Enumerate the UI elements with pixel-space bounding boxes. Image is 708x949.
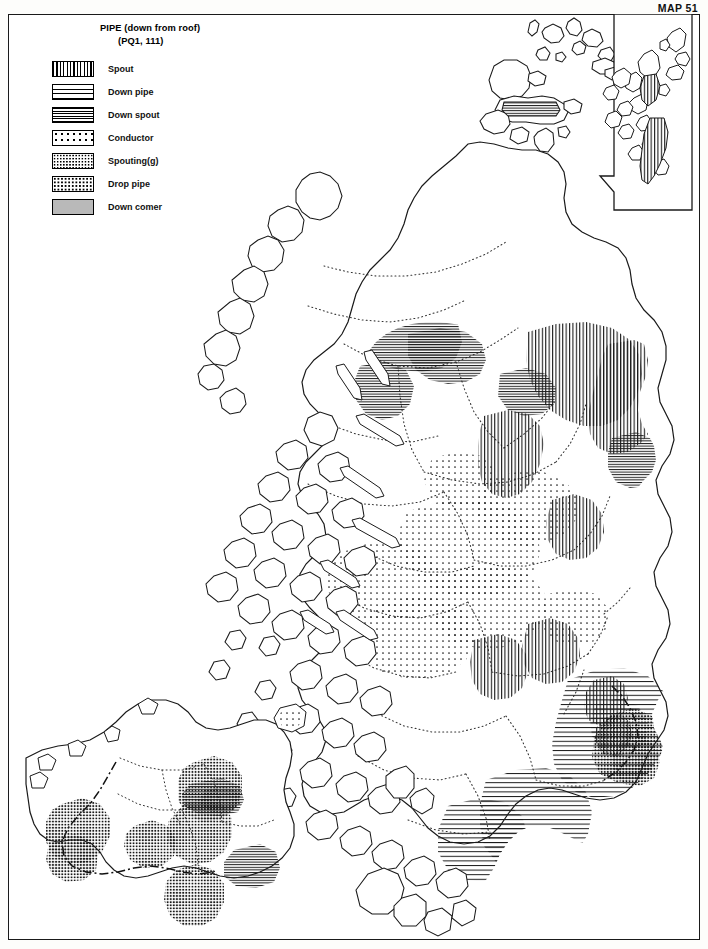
legend-label-spout: Spout	[108, 64, 134, 74]
legend-item-down-pipe[interactable]: Down pipe	[52, 81, 282, 104]
northern-ireland-inset-group	[26, 698, 306, 926]
legend-swatch-horizontal-lines-tight-icon	[52, 107, 94, 123]
legend-swatch-sparse-dots-icon	[52, 130, 94, 146]
map-number-label: MAP 51	[658, 2, 698, 14]
legend-item-down-spout[interactable]: Down spout	[52, 104, 282, 127]
legend-item-spout[interactable]: Spout	[52, 58, 282, 81]
legend-label-down-spout: Down spout	[108, 110, 160, 120]
legend-item-conductor[interactable]: Conductor	[52, 127, 282, 150]
shetland-inset-group	[600, 14, 692, 210]
legend-swatch-dense-dot-mesh-icon	[52, 153, 94, 169]
map-page: MAP 51	[0, 0, 708, 949]
legend-swatch-medium-dots-icon	[52, 176, 94, 192]
legend-label-down-comer: Down comer	[108, 202, 162, 212]
legend-item-drop-pipe[interactable]: Drop pipe	[52, 173, 282, 196]
orkney-islands	[480, 18, 622, 152]
legend-title-line2: (PQ1, 111)	[118, 35, 282, 48]
legend-swatch-vertical-lines-icon	[52, 61, 94, 77]
legend-title-line1: PIPE (down from roof)	[100, 23, 200, 33]
legend-swatch-horizontal-lines-wide-icon	[52, 84, 94, 100]
legend-label-spouting: Spouting(g)	[108, 156, 158, 166]
legend-label-down-pipe: Down pipe	[108, 87, 154, 97]
legend-item-down-comer[interactable]: Down comer	[52, 196, 282, 219]
map-legend: PIPE (down from roof) (PQ1, 111) Spout D…	[52, 22, 282, 219]
legend-swatch-solid-grey-icon	[52, 199, 94, 215]
legend-label-drop-pipe: Drop pipe	[108, 179, 150, 189]
legend-label-conductor: Conductor	[108, 133, 154, 143]
legend-title: PIPE (down from roof) (PQ1, 111)	[100, 22, 282, 49]
legend-item-spouting[interactable]: Spouting(g)	[52, 150, 282, 173]
